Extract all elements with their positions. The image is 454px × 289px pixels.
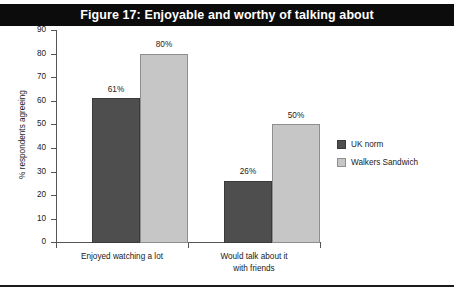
legend-swatch-uk-norm-icon xyxy=(337,140,346,149)
figure-container: Figure 17: Enjoyable and worthy of talki… xyxy=(0,0,454,289)
y-tick-label-0: 0 xyxy=(6,237,46,246)
figure-title-bar: Figure 17: Enjoyable and worthy of talki… xyxy=(0,4,454,26)
y-tick-label-90: 90 xyxy=(6,25,46,34)
y-tick-label-50: 50 xyxy=(6,119,46,128)
y-tick-80 xyxy=(51,54,56,55)
y-tick-10 xyxy=(51,219,56,220)
x-category-label-1: Enjoyed watching a lot xyxy=(47,251,197,263)
y-tick-label-60: 60 xyxy=(6,96,46,105)
legend-item-walkers-sandwich: Walkers Sandwich xyxy=(337,153,418,171)
y-tick-label-10: 10 xyxy=(6,214,46,223)
legend-label-uk-norm: UK norm xyxy=(351,140,383,149)
legend-item-uk-norm: UK norm xyxy=(337,135,418,153)
bottom-divider xyxy=(0,285,454,287)
x-category-label-2-line2: with friends xyxy=(179,263,329,275)
bar-walkers-enjoyed xyxy=(140,54,188,243)
bar-label-walkers-enjoyed: 80% xyxy=(141,40,187,49)
y-tick-90 xyxy=(51,30,56,31)
x-category-label-1-line1: Enjoyed watching a lot xyxy=(47,251,197,263)
y-tick-40 xyxy=(51,148,56,149)
bar-uk-norm-enjoyed xyxy=(92,98,140,243)
bar-label-walkers-talk: 50% xyxy=(273,111,319,120)
y-tick-30 xyxy=(51,172,56,173)
plot-area: % respondents agreeing 90 80 70 60 50 40… xyxy=(0,26,454,282)
y-tick-60 xyxy=(51,101,56,102)
bar-uk-norm-talk xyxy=(224,181,272,243)
y-tick-label-30: 30 xyxy=(6,167,46,176)
bar-label-uk-norm-enjoyed: 61% xyxy=(93,85,139,94)
y-tick-label-80: 80 xyxy=(6,49,46,58)
y-tick-20 xyxy=(51,195,56,196)
legend-swatch-walkers-sandwich-icon xyxy=(337,158,346,167)
y-tick-50 xyxy=(51,124,56,125)
y-tick-label-70: 70 xyxy=(6,72,46,81)
x-tick-start xyxy=(56,243,57,248)
y-tick-70 xyxy=(51,77,56,78)
x-category-label-2-line1: Would talk about it xyxy=(179,251,329,263)
y-axis-line xyxy=(56,30,57,243)
legend-label-walkers-sandwich: Walkers Sandwich xyxy=(351,158,418,167)
y-tick-label-20: 20 xyxy=(6,190,46,199)
bar-label-uk-norm-talk: 26% xyxy=(225,167,271,176)
y-tick-label-40: 40 xyxy=(6,143,46,152)
bar-walkers-talk xyxy=(272,124,320,243)
y-axis-title: % respondents agreeing xyxy=(18,70,27,200)
x-tick-end xyxy=(320,243,321,248)
x-tick-mid xyxy=(188,243,189,248)
page-title: Figure 17: Enjoyable and worthy of talki… xyxy=(80,8,374,22)
x-category-label-2: Would talk about it with friends xyxy=(179,251,329,274)
legend: UK norm Walkers Sandwich xyxy=(337,135,418,171)
